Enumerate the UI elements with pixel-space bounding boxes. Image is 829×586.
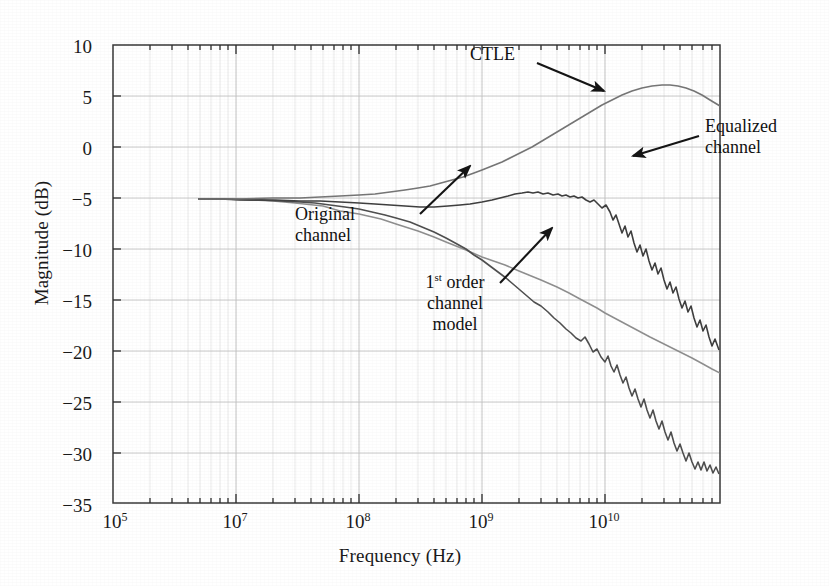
curve-original-channel [198,199,719,474]
x-tick-1e10-exponent: 10 [608,510,620,524]
arrow-ctle [537,63,604,91]
x-tick-1e9-mantissa: 10 [469,511,488,532]
y-tick-5: 5 [30,88,92,107]
x-tick-1e10-mantissa: 10 [589,511,608,532]
y-tick-neg15: −15 [30,292,92,311]
y-tick-neg30: −30 [30,445,92,464]
first-order-ordinal-suffix: st [435,271,442,283]
x-tick-1e7-mantissa: 10 [223,511,242,532]
x-tick-1e8-mantissa: 10 [346,511,365,532]
x-tick-1e5-exponent: 5 [122,510,128,524]
annotation-equalized-channel-label: Equalized channel [705,116,777,158]
y-tick-neg5: −5 [30,190,92,209]
first-order-word-order: order [442,272,484,292]
x-tick-1e10: 1010 [569,512,639,531]
arrow-equalized-channel [633,136,699,156]
first-order-line2: channel [427,293,483,313]
y-tick-neg25: −25 [30,394,92,413]
y-tick-neg20: −20 [30,343,92,362]
y-tick-10: 10 [30,37,92,56]
first-order-numeral: 1 [426,272,435,292]
y-tick-0: 0 [30,139,92,158]
x-tick-1e9-exponent: 9 [488,510,494,524]
x-tick-1e9: 109 [446,512,516,531]
annotation-first-order-model-label: 1st orderchannelmodel [395,272,515,336]
figure-bode-magnitude: Magnitude (dB) Frequency (Hz) 10 5 0 −5 … [0,0,829,586]
x-axis-title: Frequency (Hz) [250,545,550,567]
x-tick-1e5-mantissa: 10 [103,511,122,532]
x-tick-1e7-exponent: 7 [242,510,248,524]
x-tick-1e8: 108 [323,512,393,531]
annotation-ctle-label: CTLE [470,44,515,65]
x-tick-1e5: 105 [80,512,150,531]
annotation-original-channel-label: Original channel [295,204,355,246]
first-order-line1: 1st order [426,272,485,292]
y-tick-neg10: −10 [30,241,92,260]
x-tick-1e8-exponent: 8 [365,510,371,524]
first-order-line3: model [433,314,478,334]
x-tick-1e7: 107 [200,512,270,531]
